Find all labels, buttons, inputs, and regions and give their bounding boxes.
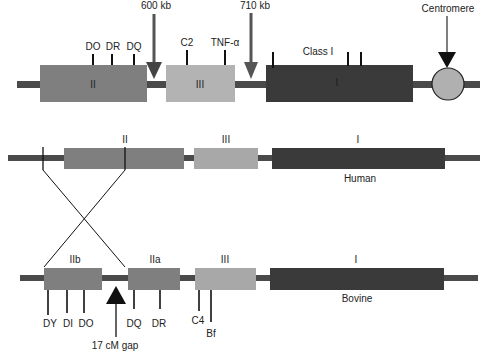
bovine-bf-label: Bf bbox=[206, 328, 216, 339]
arrow-centromere bbox=[438, 16, 456, 68]
gap-label: 17 cM gap bbox=[92, 340, 139, 351]
top-c2-label: C2 bbox=[181, 37, 194, 48]
human-class-ii-label: II bbox=[122, 134, 128, 145]
arrow-600kb bbox=[146, 14, 162, 79]
arrow-centromere-label: Centromere bbox=[422, 3, 475, 14]
top-tnf-label: TNF-α bbox=[211, 37, 240, 48]
top-class-ii-label: II bbox=[90, 79, 96, 90]
top-chromosome: II III I Class I DO DR DQ C2 TNF-α 600 k… bbox=[17, 0, 480, 102]
arrow-710kb-label: 710 kb bbox=[240, 0, 270, 11]
bovine-class-i-region bbox=[270, 268, 444, 290]
human-species-label: Human bbox=[344, 173, 376, 184]
top-class-i-region bbox=[266, 65, 413, 102]
arrow-710kb bbox=[244, 13, 258, 79]
human-class-i-label: I bbox=[357, 134, 360, 145]
bovine-class-iii-label: III bbox=[221, 254, 229, 265]
bovine-class-i-label: I bbox=[355, 254, 358, 265]
top-class-iii-label: III bbox=[196, 79, 204, 90]
mhc-comparison-diagram: II III I Class I DO DR DQ C2 TNF-α 600 k… bbox=[0, 0, 483, 352]
inversion-cross-lines bbox=[43, 170, 125, 267]
human-class-iii-label: III bbox=[222, 134, 230, 145]
top-dq-label: DQ bbox=[127, 41, 142, 52]
bovine-class-iia-region bbox=[128, 268, 180, 290]
bovine-class-iib-label: IIb bbox=[69, 254, 81, 265]
human-class-ii-region bbox=[64, 148, 184, 169]
bovine-class-iib-region bbox=[44, 268, 102, 290]
bovine-class-iii-region bbox=[195, 268, 256, 290]
centromere-circle bbox=[432, 68, 464, 100]
bovine-class-iia-label: IIa bbox=[149, 254, 161, 265]
bovine-dq-label: DQ bbox=[127, 318, 142, 329]
bovine-dr-label: DR bbox=[152, 318, 166, 329]
top-class-i-label: I bbox=[336, 77, 339, 88]
top-do-label: DO bbox=[86, 41, 101, 52]
gap-arrow bbox=[106, 286, 126, 337]
human-class-iii-region bbox=[194, 148, 258, 169]
arrow-600kb-label: 600 kb bbox=[141, 0, 171, 11]
human-chromosome: II III I Human bbox=[8, 134, 480, 184]
bovine-di-label: DI bbox=[63, 318, 73, 329]
bovine-chromosome: IIb IIa III I Bovine DY DI DO DQ DR C4 B… bbox=[20, 254, 478, 351]
bovine-species-label: Bovine bbox=[342, 293, 373, 304]
bovine-dy-label: DY bbox=[43, 318, 57, 329]
human-class-i-region bbox=[272, 148, 445, 169]
bovine-c4-label: C4 bbox=[192, 315, 205, 326]
top-class-i-title: Class I bbox=[303, 46, 334, 57]
bovine-do-label: DO bbox=[79, 318, 94, 329]
top-dr-label: DR bbox=[106, 41, 120, 52]
